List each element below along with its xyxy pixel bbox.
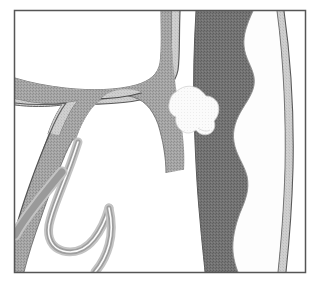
figure-container: Cerebral vessel junction illustration <box>0 0 320 291</box>
anatomical-illustration <box>0 0 320 291</box>
